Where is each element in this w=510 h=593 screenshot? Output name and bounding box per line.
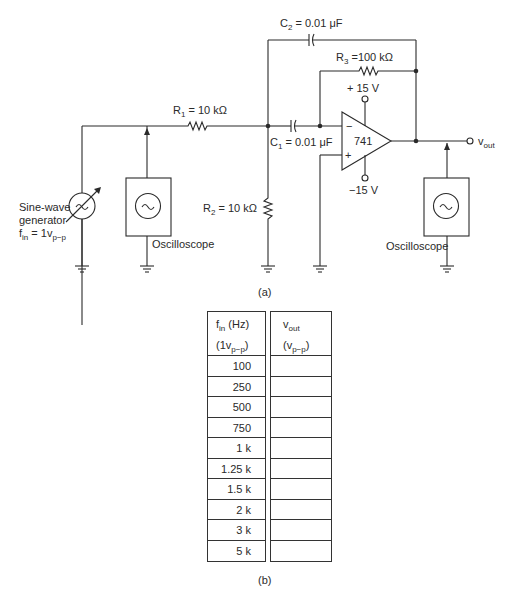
c1-label: C1 = 0.01 μF [270, 136, 333, 151]
fin-cell: 1 k [208, 438, 265, 459]
vout-header: vout (vp−p) [271, 312, 331, 356]
caption-a: (a) [258, 286, 271, 298]
vout-cell[interactable] [271, 397, 331, 418]
fin-header: fin (Hz) (1vp−p) [208, 312, 265, 356]
vminus-label: −15 V [349, 184, 379, 196]
vplus-label: + 15 V [347, 82, 380, 94]
vout-cell[interactable] [271, 418, 331, 439]
caption-b: (b) [258, 574, 271, 586]
fin-cell: 2 k [208, 500, 265, 521]
generator-label-1: Sine-wave [19, 201, 70, 213]
r3-label: R3 =100 kΩ [336, 51, 393, 66]
fin-cell: 750 [208, 418, 265, 439]
inverting-sign: − [346, 120, 352, 132]
fin-cell: 250 [208, 377, 265, 398]
opamp-label: 741 [354, 135, 372, 147]
vout-label: vout [478, 135, 495, 150]
r2-label: R2 = 10 kΩ [203, 202, 257, 217]
r1-resistor [183, 122, 214, 130]
vout-cell[interactable] [271, 356, 331, 377]
vout-cell[interactable] [271, 541, 331, 562]
generator-label-3: fin = 1vp−p [19, 227, 67, 242]
fin-cell: 100 [208, 356, 265, 377]
fin-cell: 1.25 k [208, 459, 265, 480]
r3-resistor [356, 67, 416, 75]
vout-column: vout (vp−p) [270, 311, 332, 562]
vout-cell[interactable] [271, 520, 331, 541]
generator-label-2: generator [19, 214, 66, 226]
fin-cell: 1.5 k [208, 479, 265, 500]
vout-cell[interactable] [271, 459, 331, 480]
vout-cell[interactable] [271, 500, 331, 521]
oscilloscope-2-label: Oscilloscope [386, 240, 448, 252]
c2-label: C2 = 0.01 μF [280, 17, 343, 32]
measurement-table: fin (Hz) (1vp−p) 100 250 500 750 1 k 1.2… [207, 311, 332, 562]
fin-column: fin (Hz) (1vp−p) 100 250 500 750 1 k 1.2… [207, 311, 266, 562]
vout-cell[interactable] [271, 377, 331, 398]
fin-cell: 3 k [208, 520, 265, 541]
noninverting-sign: + [345, 149, 351, 161]
vout-cell[interactable] [271, 479, 331, 500]
fin-cell: 5 k [208, 541, 265, 562]
oscilloscope-1-label: Oscilloscope [152, 238, 214, 250]
r2-resistor [264, 195, 272, 222]
r1-label: R1 = 10 kΩ [173, 104, 227, 119]
vout-cell[interactable] [271, 438, 331, 459]
vout-terminal [467, 138, 473, 144]
fin-cell: 500 [208, 397, 265, 418]
